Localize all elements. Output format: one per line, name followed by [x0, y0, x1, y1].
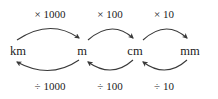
- divide-arrow-mm-to-cm: [143, 60, 187, 70]
- unit-conversion-diagram: × 1000 × 100 × 10 km m cm mm ÷ 1000 ÷ 10…: [0, 0, 218, 99]
- divide-arrow-cm-to-m: [88, 60, 133, 70]
- unit-label-km: km: [10, 45, 26, 58]
- unit-label-m: m: [77, 45, 87, 58]
- divide-label-mm-cm: ÷ 10: [154, 81, 174, 92]
- unit-label-cm: cm: [127, 45, 142, 58]
- multiply-label-km-m: × 1000: [35, 9, 66, 20]
- multiply-label-cm-mm: × 10: [154, 9, 174, 20]
- divide-label-cm-m: ÷ 100: [97, 81, 122, 92]
- multiply-arrow-cm-to-mm: [143, 29, 187, 40]
- divide-label-m-km: ÷ 1000: [35, 81, 66, 92]
- multiply-label-m-cm: × 100: [97, 9, 122, 20]
- multiply-arrow-km-to-m: [17, 28, 79, 40]
- multiply-arrow-m-to-cm: [88, 29, 133, 40]
- divide-arrow-m-to-km: [17, 60, 79, 71]
- unit-label-mm: mm: [180, 45, 199, 58]
